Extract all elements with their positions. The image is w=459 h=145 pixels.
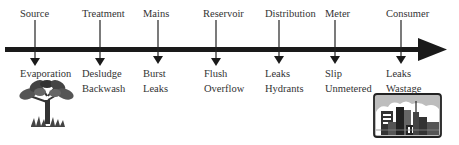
loss-label-leaks-consumer: Leaks bbox=[386, 68, 411, 80]
loss-label-unmetered: Unmetered bbox=[325, 83, 372, 95]
stage-label-distribution: Distribution bbox=[265, 8, 316, 20]
arrow-treatment bbox=[95, 20, 105, 66]
main-flow-arrow bbox=[5, 38, 447, 61]
stage-arrows bbox=[30, 20, 406, 66]
stage-label-mains: Mains bbox=[143, 8, 169, 20]
stage-label-treatment: Treatment bbox=[82, 8, 125, 20]
loss-label-desludge: Desludge bbox=[82, 68, 122, 80]
city-skyline-icon bbox=[374, 94, 441, 137]
stage-label-source: Source bbox=[20, 8, 49, 20]
arrow-distribution bbox=[274, 20, 284, 64]
loss-label-evaporation: Evaporation bbox=[20, 68, 71, 80]
loss-label-slip: Slip bbox=[325, 68, 342, 80]
arrow-mains bbox=[153, 20, 163, 64]
loss-label-hydrants: Hydrants bbox=[265, 83, 304, 95]
loss-label-leaks-distribution: Leaks bbox=[265, 68, 290, 80]
arrow-meter bbox=[330, 20, 340, 64]
loss-label-backwash: Backwash bbox=[82, 83, 125, 95]
arrow-reservoir bbox=[211, 20, 221, 66]
loss-label-overflow: Overflow bbox=[204, 83, 244, 95]
stage-label-consumer: Consumer bbox=[386, 8, 429, 20]
loss-label-leaks-mains: Leaks bbox=[143, 83, 168, 95]
tree-icon bbox=[18, 78, 75, 127]
loss-label-burst: Burst bbox=[143, 68, 166, 80]
stage-label-meter: Meter bbox=[325, 8, 350, 20]
loss-label-flush: Flush bbox=[204, 68, 227, 80]
arrow-source bbox=[30, 20, 40, 66]
stage-label-reservoir: Reservoir bbox=[203, 8, 244, 20]
arrow-consumer bbox=[396, 20, 406, 64]
loss-label-wastage: Wastage bbox=[386, 83, 421, 95]
